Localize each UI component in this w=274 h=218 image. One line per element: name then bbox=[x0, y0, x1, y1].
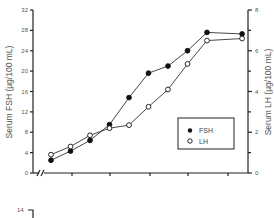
right-tick-label: 0 bbox=[255, 170, 259, 176]
chart: 048121620242832 02468 Serum FSH (µg/100 … bbox=[0, 0, 274, 218]
right-axis-ticks: 02468 bbox=[248, 7, 259, 176]
data-point-fsh bbox=[166, 64, 171, 69]
data-point-lh bbox=[107, 126, 112, 131]
right-tick-label: 2 bbox=[255, 129, 259, 135]
data-point-lh bbox=[205, 38, 210, 43]
data-point-fsh bbox=[240, 32, 245, 37]
data-point-lh bbox=[166, 87, 171, 92]
left-tick-label: 4 bbox=[25, 150, 29, 156]
left-tick-label: 28 bbox=[21, 27, 28, 33]
data-point-fsh bbox=[185, 48, 190, 53]
legend-marker-lh bbox=[188, 139, 192, 143]
data-point-lh bbox=[68, 144, 73, 149]
left-tick-label: 24 bbox=[21, 48, 28, 54]
left-tick-label: 32 bbox=[21, 7, 28, 13]
data-point-lh bbox=[88, 133, 93, 138]
data-point-lh bbox=[49, 152, 54, 157]
data-point-fsh bbox=[88, 138, 93, 143]
data-point-lh bbox=[127, 123, 132, 128]
left-tick-label: 12 bbox=[21, 109, 28, 115]
axes bbox=[33, 10, 248, 176]
second-panel-axis bbox=[28, 210, 33, 218]
left-axis-title: Serum FSH (µg/100 mL) bbox=[4, 45, 14, 138]
axis-break-icon bbox=[37, 170, 44, 176]
data-point-fsh bbox=[68, 149, 73, 154]
data-point-fsh bbox=[49, 158, 54, 163]
left-tick-label: 20 bbox=[21, 68, 28, 74]
left-tick-label: 0 bbox=[25, 170, 29, 176]
second-panel-partial: 14 bbox=[17, 207, 33, 218]
data-point-lh bbox=[240, 36, 245, 41]
right-tick-label: 6 bbox=[255, 48, 259, 54]
right-tick-label: 4 bbox=[255, 89, 259, 95]
right-axis-title: Serum LH (µg/100 mL) bbox=[263, 49, 273, 136]
legend-marker-fsh bbox=[188, 128, 192, 132]
legend-label-fsh: FSH bbox=[199, 127, 213, 134]
left-tick-label: 8 bbox=[25, 129, 29, 135]
legend-label-lh: LH bbox=[199, 138, 208, 145]
data-point-fsh bbox=[205, 30, 210, 35]
left-axis-ticks: 048121620242832 bbox=[21, 7, 33, 176]
data-point-lh bbox=[185, 62, 190, 67]
second-panel-tick-label: 14 bbox=[17, 207, 24, 213]
data-point-fsh bbox=[146, 71, 151, 76]
left-tick-label: 16 bbox=[21, 89, 28, 95]
legend: FSH LH bbox=[178, 118, 234, 149]
right-tick-label: 8 bbox=[255, 7, 259, 13]
data-point-lh bbox=[146, 104, 151, 109]
data-point-fsh bbox=[127, 95, 132, 100]
